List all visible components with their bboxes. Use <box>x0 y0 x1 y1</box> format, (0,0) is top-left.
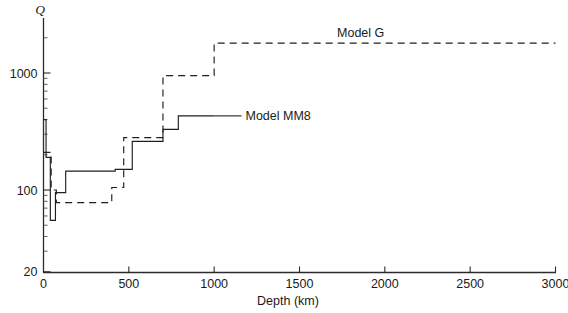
series-label-model-g: Model G <box>337 26 384 40</box>
x-tick-label: 1000 <box>200 277 228 291</box>
y-tick-label: 1000 <box>10 67 38 81</box>
quality-factor-vs-depth-chart: 201001000 050010001500200025003000 Model… <box>0 0 568 313</box>
y-tick-label: 100 <box>17 184 38 198</box>
axes-group <box>43 18 556 273</box>
y-axis-title: Q <box>35 2 45 17</box>
x-tick-label: 2500 <box>456 277 484 291</box>
x-tick-label: 1500 <box>286 277 314 291</box>
x-axis-ticks <box>129 267 556 273</box>
x-axis-title: Depth (km) <box>257 294 319 308</box>
y-axis-ticks <box>44 38 51 272</box>
y-tick-label: 20 <box>24 265 38 279</box>
chart-figure: 201001000 050010001500200025003000 Model… <box>0 0 568 313</box>
x-tick-label: 3000 <box>542 277 568 291</box>
x-tick-label: 2000 <box>371 277 399 291</box>
x-axis-tick-labels: 050010001500200025003000 <box>40 277 568 291</box>
x-tick-label: 500 <box>118 277 139 291</box>
y-axis-tick-labels: 201001000 <box>10 67 38 280</box>
series-line-model-mm8 <box>44 116 215 220</box>
series-label-model-mm8: Model MM8 <box>245 109 310 123</box>
x-tick-label: 0 <box>40 277 47 291</box>
